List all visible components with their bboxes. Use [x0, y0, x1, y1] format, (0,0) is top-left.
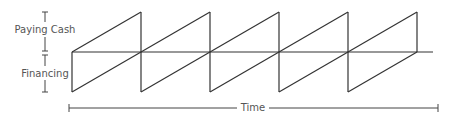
sawtooth-lines: [72, 12, 433, 92]
lower-diagonal: [210, 52, 279, 92]
upper-diagonal: [72, 12, 141, 52]
upper-diagonal: [141, 12, 210, 52]
upper-diagonal: [279, 12, 348, 52]
upper-diagonal: [210, 12, 279, 52]
lower-diagonal: [348, 52, 417, 92]
upper-diagonal: [348, 12, 417, 52]
financing-label: Financing: [21, 68, 69, 79]
time-label: Time: [240, 102, 265, 113]
lower-diagonal: [279, 52, 348, 92]
lower-diagonal: [72, 52, 141, 92]
paying-cash-label: Paying Cash: [15, 24, 76, 35]
financing-sawtooth-diagram: Paying Cash Financing Time: [0, 0, 458, 119]
lower-diagonal: [141, 52, 210, 92]
